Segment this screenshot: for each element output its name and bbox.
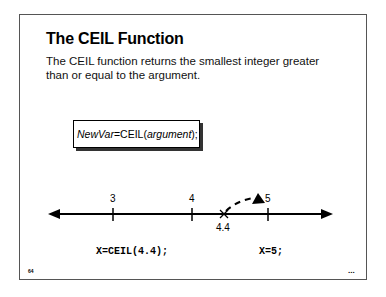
- code-left: X=CEIL(4.4);: [96, 246, 168, 257]
- tick-label-4: 4: [189, 193, 195, 204]
- dashed-arrow: [226, 198, 254, 211]
- page-number: 64: [28, 268, 34, 274]
- marker-label: 4.4: [216, 222, 230, 233]
- arrowhead-icon: [252, 193, 265, 204]
- right-arrowhead-icon: [321, 209, 333, 219]
- more-indicator[interactable]: ...: [348, 266, 355, 275]
- left-arrowhead-icon: [48, 209, 60, 219]
- tick-label-3: 3: [110, 193, 116, 204]
- number-line: [0, 0, 386, 297]
- tick-label-5: 5: [265, 193, 271, 204]
- code-right: X=5;: [259, 246, 283, 257]
